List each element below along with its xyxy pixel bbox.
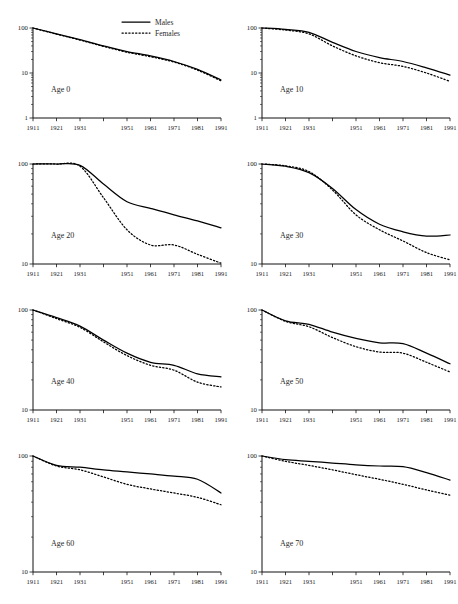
svg-text:1991: 1991 (443, 416, 456, 423)
small-multiples-figure: 11010019111921193119511961197119811991Ag… (0, 0, 458, 604)
svg-text:1971: 1971 (167, 578, 180, 585)
svg-text:1931: 1931 (73, 270, 86, 277)
svg-text:10: 10 (250, 69, 257, 76)
panel-title: Age 70 (280, 539, 303, 548)
panel-age-40: 1010019111921193119511961197119811991Age… (0, 296, 229, 442)
svg-text:1991: 1991 (214, 578, 227, 585)
svg-text:1961: 1961 (144, 578, 157, 585)
svg-text:1911: 1911 (256, 578, 269, 585)
svg-text:1981: 1981 (420, 270, 433, 277)
svg-text:10: 10 (21, 260, 28, 267)
svg-text:1951: 1951 (120, 270, 133, 277)
svg-text:1951: 1951 (120, 578, 133, 585)
svg-text:1971: 1971 (167, 270, 180, 277)
svg-text:1911: 1911 (27, 416, 40, 423)
svg-text:1921: 1921 (279, 416, 292, 423)
svg-text:1911: 1911 (27, 270, 40, 277)
svg-text:1951: 1951 (120, 416, 133, 423)
svg-text:1: 1 (25, 114, 28, 121)
svg-text:100: 100 (18, 452, 29, 459)
svg-text:1991: 1991 (214, 416, 227, 423)
svg-text:1921: 1921 (50, 416, 63, 423)
svg-text:1961: 1961 (373, 270, 386, 277)
svg-text:1911: 1911 (256, 416, 269, 423)
svg-text:1921: 1921 (50, 124, 63, 131)
svg-text:1931: 1931 (302, 416, 315, 423)
panel-title: Age 50 (280, 377, 303, 386)
svg-text:1991: 1991 (443, 124, 456, 131)
svg-text:1961: 1961 (373, 578, 386, 585)
panel-title: Age 20 (51, 231, 74, 240)
svg-text:1921: 1921 (279, 124, 292, 131)
legend-label-females: Females (155, 29, 180, 38)
svg-text:10: 10 (21, 568, 28, 575)
svg-text:1961: 1961 (144, 416, 157, 423)
panel-title: Age 40 (51, 377, 74, 386)
svg-text:10: 10 (250, 260, 257, 267)
svg-text:1951: 1951 (349, 124, 362, 131)
svg-text:100: 100 (18, 160, 29, 167)
svg-text:1951: 1951 (120, 124, 133, 131)
svg-text:1981: 1981 (191, 124, 204, 131)
svg-text:100: 100 (247, 306, 258, 313)
svg-text:1981: 1981 (191, 416, 204, 423)
panel-title: Age 10 (280, 85, 303, 94)
svg-text:1971: 1971 (167, 416, 180, 423)
svg-text:100: 100 (18, 24, 29, 31)
svg-text:1951: 1951 (349, 416, 362, 423)
svg-text:1931: 1931 (302, 124, 315, 131)
svg-text:1921: 1921 (279, 270, 292, 277)
svg-text:1931: 1931 (73, 416, 86, 423)
svg-text:1991: 1991 (214, 124, 227, 131)
svg-text:1911: 1911 (27, 124, 40, 131)
svg-text:10: 10 (21, 406, 28, 413)
svg-text:1911: 1911 (256, 270, 269, 277)
svg-text:1991: 1991 (443, 270, 456, 277)
svg-text:1971: 1971 (167, 124, 180, 131)
panel-age-60: 1010019111921193119511961197119811991Age… (0, 442, 229, 604)
panel-age-0: 11010019111921193119511961197119811991Ag… (0, 0, 229, 150)
panel-age-50: 1010019111921193119511961197119811991Age… (229, 296, 458, 442)
svg-text:1981: 1981 (191, 270, 204, 277)
svg-text:1: 1 (254, 114, 257, 121)
svg-text:1971: 1971 (396, 416, 409, 423)
svg-text:1971: 1971 (396, 578, 409, 585)
svg-text:1991: 1991 (443, 578, 456, 585)
svg-text:1921: 1921 (50, 270, 63, 277)
svg-text:1981: 1981 (191, 578, 204, 585)
svg-text:10: 10 (250, 568, 257, 575)
svg-text:1931: 1931 (73, 124, 86, 131)
svg-text:10: 10 (21, 69, 28, 76)
svg-text:1981: 1981 (420, 124, 433, 131)
panel-title: Age 30 (280, 231, 303, 240)
panel-age-20: 1010019111921193119511961197119811991Age… (0, 150, 229, 296)
svg-text:100: 100 (247, 160, 258, 167)
svg-text:1981: 1981 (420, 578, 433, 585)
svg-text:1961: 1961 (144, 270, 157, 277)
svg-text:1921: 1921 (279, 578, 292, 585)
svg-text:1931: 1931 (302, 578, 315, 585)
svg-text:1911: 1911 (256, 124, 269, 131)
panel-title: Age 60 (51, 539, 74, 548)
svg-text:100: 100 (247, 24, 258, 31)
svg-text:1971: 1971 (396, 124, 409, 131)
svg-text:10: 10 (250, 406, 257, 413)
panel-age-10: 11010019111921193119511961197119811991Ag… (229, 0, 458, 150)
panel-age-30: 1010019111921193119511961197119811991Age… (229, 150, 458, 296)
svg-text:1961: 1961 (373, 416, 386, 423)
svg-text:1961: 1961 (373, 124, 386, 131)
svg-text:1951: 1951 (349, 270, 362, 277)
svg-text:100: 100 (247, 452, 258, 459)
svg-text:1921: 1921 (50, 578, 63, 585)
svg-text:1981: 1981 (420, 416, 433, 423)
svg-text:1961: 1961 (144, 124, 157, 131)
svg-text:1951: 1951 (349, 578, 362, 585)
panel-age-70: 1010019111921193119511961197119811991Age… (229, 442, 458, 604)
svg-text:100: 100 (18, 306, 29, 313)
svg-text:1991: 1991 (214, 270, 227, 277)
svg-text:1911: 1911 (27, 578, 40, 585)
svg-text:1931: 1931 (302, 270, 315, 277)
legend-label-males: Males (155, 18, 173, 27)
svg-text:1971: 1971 (396, 270, 409, 277)
panel-title: Age 0 (51, 85, 70, 94)
